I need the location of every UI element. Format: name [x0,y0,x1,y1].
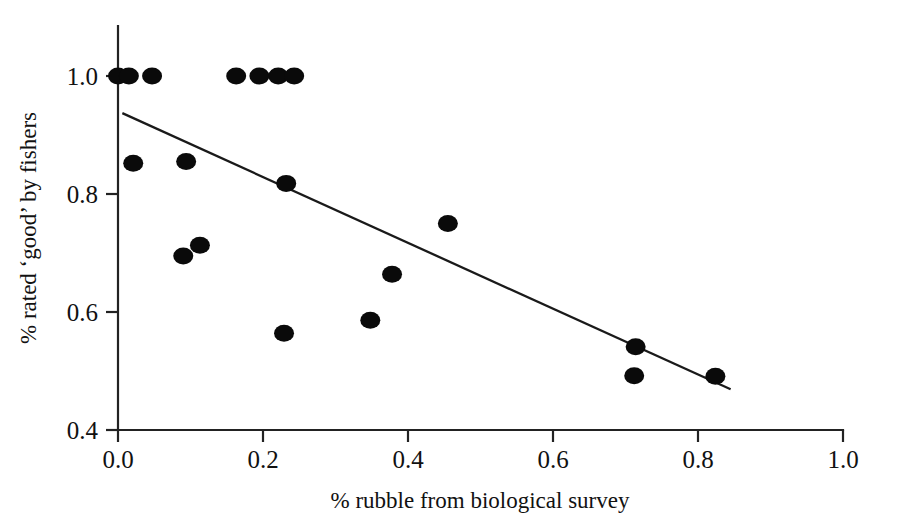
x-tick-label-0.8: 0.8 [682,446,713,473]
data-point [284,68,304,85]
scatter-plot-figure: 1.0 0.8 0.6 0.4 0.0 0.2 0.4 0.6 0.8 1.0 … [0,0,897,522]
data-point [142,68,162,85]
data-point [382,266,402,283]
plot-canvas: 1.0 0.8 0.6 0.4 0.0 0.2 0.4 0.6 0.8 1.0 … [0,0,897,522]
data-point [173,247,193,264]
y-axis-tick-labels: 1.0 0.8 0.6 0.4 [67,63,99,444]
data-point [624,367,644,384]
x-axis-ticks [118,430,843,442]
x-axis-title: % rubble from biological survey [331,488,630,513]
data-point [176,153,196,170]
data-point [705,368,725,385]
data-point [438,215,458,232]
y-axis-ticks [106,76,118,430]
y-tick-label-0.8: 0.8 [67,181,98,208]
x-tick-label-0.2: 0.2 [247,446,278,473]
data-point [274,325,294,342]
data-point [123,155,143,172]
x-tick-label-0.4: 0.4 [392,446,424,473]
data-point [626,338,646,355]
y-axis-title: % rated ‘good’ by fishers [16,112,41,344]
data-point [190,237,210,254]
data-point [276,175,296,192]
data-point [360,312,380,329]
data-point [249,68,269,85]
data-points-group [108,68,725,385]
x-tick-label-0.6: 0.6 [537,446,568,473]
x-tick-label-0.0: 0.0 [102,446,133,473]
data-point [119,68,139,85]
y-tick-label-0.4: 0.4 [67,417,99,444]
y-tick-label-0.6: 0.6 [67,299,98,326]
data-point [226,68,246,85]
x-axis-tick-labels: 0.0 0.2 0.4 0.6 0.8 1.0 [102,446,858,473]
x-tick-label-1.0: 1.0 [827,446,858,473]
y-tick-label-1.0: 1.0 [67,63,98,90]
